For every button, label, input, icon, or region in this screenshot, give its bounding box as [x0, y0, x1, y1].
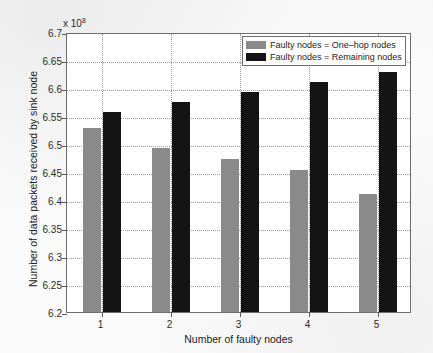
y-axis-tick-mark	[62, 62, 67, 63]
x-axis-tick-mark	[309, 312, 310, 317]
bar	[221, 159, 239, 312]
x-axis-tick-mark	[171, 312, 172, 317]
legend: Faulty nodes = One–hop nodes Faulty node…	[242, 36, 406, 66]
x-axis-title: Number of faulty nodes	[66, 333, 411, 345]
y-axis-title: Number of data packets received by sink …	[27, 54, 39, 304]
bar	[152, 148, 170, 312]
y-axis-tick-mark	[62, 174, 67, 175]
y-axis-tick-label: 6.6	[48, 84, 62, 95]
bar	[359, 194, 377, 312]
y-axis-tick-label: 6.7	[48, 28, 62, 39]
legend-label: Faulty nodes = One–hop nodes	[270, 40, 396, 50]
y-axis-multiplier-power: 8	[82, 17, 86, 24]
y-axis-multiplier: x 108	[63, 17, 86, 29]
y-axis-tick-mark	[62, 230, 67, 231]
legend-item: Faulty nodes = Remaining nodes	[246, 51, 402, 62]
y-axis-tick-label: 6.3	[48, 252, 62, 263]
y-axis-tick-mark	[62, 90, 67, 91]
x-axis-tick-label: 5	[374, 319, 380, 330]
bar	[103, 112, 121, 312]
y-axis-tick-label: 6.2	[48, 308, 62, 319]
plot-area	[66, 33, 411, 313]
bar	[290, 170, 308, 312]
bar	[379, 72, 397, 312]
y-axis-tick-label: 6.65	[43, 56, 62, 67]
bar	[241, 92, 259, 312]
y-axis-tick-mark	[62, 146, 67, 147]
y-axis-tick-mark	[62, 118, 67, 119]
y-axis-tick-label: 6.5	[48, 140, 62, 151]
y-axis-tick-mark	[62, 258, 67, 259]
bar	[172, 102, 190, 312]
x-axis-tick-label: 1	[98, 319, 104, 330]
y-axis-tick-label: 6.45	[43, 168, 62, 179]
legend-item: Faulty nodes = One–hop nodes	[246, 39, 402, 50]
y-axis-multiplier-prefix: x 10	[63, 18, 82, 29]
y-axis-tick-mark	[62, 202, 67, 203]
x-axis-tick-label: 2	[167, 319, 173, 330]
x-axis-tick-mark	[240, 312, 241, 317]
y-axis-tick-label: 6.35	[43, 224, 62, 235]
bar	[83, 128, 101, 312]
legend-swatch-icon	[246, 41, 266, 49]
legend-label: Faulty nodes = Remaining nodes	[270, 52, 402, 62]
y-axis-tick-mark	[62, 34, 67, 35]
y-axis-tick-mark	[62, 314, 67, 315]
y-axis-tick-mark	[62, 286, 67, 287]
x-axis-tick-mark	[102, 312, 103, 317]
y-axis-tick-label: 6.55	[43, 112, 62, 123]
x-axis-tick-mark	[378, 312, 379, 317]
y-axis-tick-label: 6.25	[43, 280, 62, 291]
y-axis-tick-label: 6.4	[48, 196, 62, 207]
plot-inner	[67, 34, 410, 312]
bar	[310, 82, 328, 312]
legend-swatch-icon	[246, 53, 266, 61]
x-axis-tick-label: 4	[305, 319, 311, 330]
chart-figure: x 108 6.26.256.36.356.46.456.56.556.66.6…	[0, 0, 433, 353]
x-axis-tick-label: 3	[236, 319, 242, 330]
gridline-horizontal	[67, 90, 410, 91]
